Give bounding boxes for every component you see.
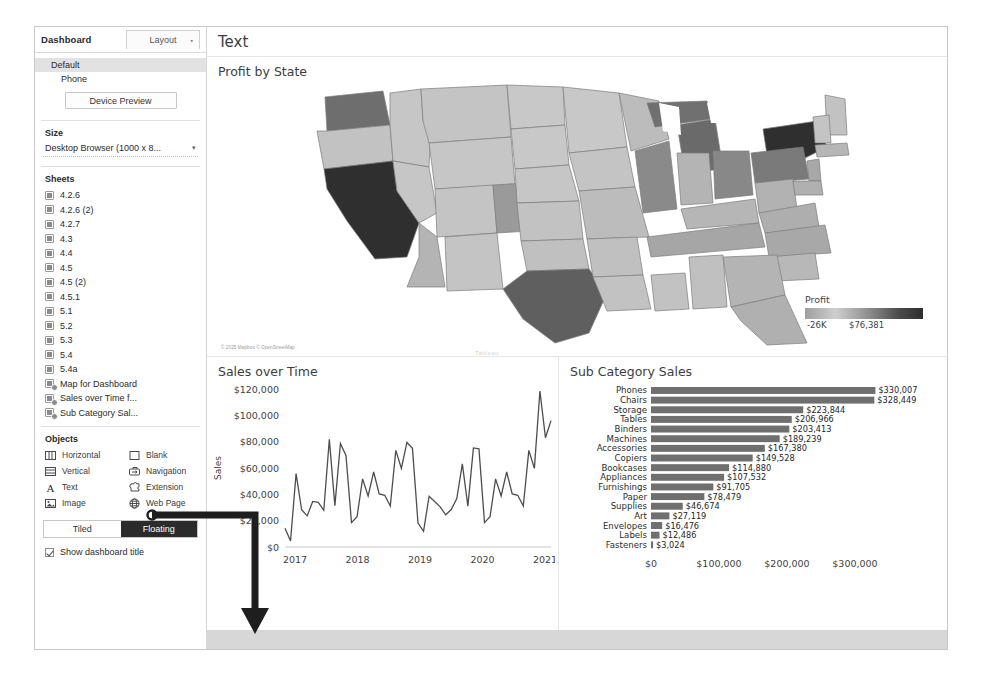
worksheet-icon [45, 292, 54, 301]
object-item-vertical[interactable]: Vertical [45, 463, 129, 479]
tiled-label: Tiled [73, 524, 92, 534]
line-chart-svg[interactable]: $0$20,000$40,000$60,000$80,000$100,000$1… [207, 381, 555, 581]
map-area[interactable]: © 2025 Mapbox © OpenStreetMap Tableau Pr… [207, 81, 947, 356]
sheet-item-label: 4.4 [60, 248, 73, 258]
worksheet-icon [45, 321, 54, 330]
bar-rect[interactable] [651, 503, 683, 510]
tab-layout[interactable]: Layout ▪ [126, 30, 200, 49]
sheet-item[interactable]: 5.3 [45, 333, 206, 348]
bar-rect[interactable] [651, 435, 780, 442]
sheet-item-label: 4.5 [60, 263, 73, 273]
bar-rect[interactable] [651, 541, 653, 548]
map-panel: Profit by State [207, 57, 947, 357]
sheet-item[interactable]: 4.5.1 [45, 290, 206, 305]
object-item-label: Image [62, 498, 86, 508]
size-heading: Size [35, 121, 206, 141]
bar-rect[interactable] [651, 387, 875, 394]
device-preview-button[interactable]: Device Preview [65, 92, 177, 109]
object-item-label: Navigation [146, 466, 186, 476]
bar-rect[interactable] [651, 445, 765, 452]
sidebar-title: Dashboard [41, 34, 126, 45]
sheet-item[interactable]: 4.2.7 [45, 217, 206, 232]
bar-value-label: $107,532 [727, 472, 766, 482]
checkbox-icon[interactable] [45, 548, 54, 557]
dashboard-canvas: Text Profit by State [207, 27, 947, 649]
sheet-item-label: Sales over Time f... [60, 393, 137, 403]
sheet-item[interactable]: 4.5 (2) [45, 275, 206, 290]
bar-rect[interactable] [651, 493, 704, 500]
line-chart[interactable]: $0$20,000$40,000$60,000$80,000$100,000$1… [207, 381, 554, 629]
sheet-item[interactable]: Map for Dashboard [45, 377, 206, 392]
floating-button[interactable]: Floating [121, 521, 198, 537]
bar-rect[interactable] [651, 397, 874, 404]
objects-heading: Objects [35, 427, 206, 447]
bar-rect[interactable] [651, 426, 789, 433]
object-item-label: Text [62, 482, 78, 492]
bar-rect[interactable] [651, 474, 724, 481]
bar-category-label: Accessories [597, 443, 648, 453]
bar-category-label: Supplies [611, 501, 648, 511]
bar-chart-svg[interactable]: Phones$330,007Chairs$328,449Storage$223,… [559, 381, 939, 581]
state-missouri [579, 187, 649, 239]
bar-rect[interactable] [651, 406, 803, 413]
sheet-item[interactable]: 5.4a [45, 362, 206, 377]
sheet-item[interactable]: 4.5 [45, 261, 206, 276]
device-item-phone[interactable]: Phone [35, 72, 206, 86]
bar-rect[interactable] [651, 532, 659, 539]
bar-rect[interactable] [651, 512, 669, 519]
size-dropdown[interactable]: Desktop Browser (1000 x 8... ▾ [43, 141, 198, 157]
worksheet-icon [45, 307, 54, 316]
sheet-item[interactable]: 4.2.6 (2) [45, 203, 206, 218]
size-dropdown-value: Desktop Browser (1000 x 8... [45, 143, 192, 153]
bar-value-label: $167,380 [768, 443, 807, 453]
bar-rect[interactable] [651, 416, 792, 423]
object-item-label: Extension [146, 482, 183, 492]
sheet-item[interactable]: 5.4 [45, 348, 206, 363]
map-panel-title: Profit by State [207, 57, 947, 81]
bar-category-label: Binders [615, 424, 648, 434]
object-item-text[interactable]: AText [45, 479, 129, 495]
tab-layout-label: Layout [149, 35, 176, 45]
sheet-item[interactable]: Sales over Time f... [45, 391, 206, 406]
map-attribution: © 2025 Mapbox © OpenStreetMap [221, 345, 295, 350]
text-icon: A [45, 482, 56, 493]
tableau-watermark: Tableau [475, 350, 499, 356]
bar-x-tick-label: $200,000 [764, 558, 809, 569]
object-item-image[interactable]: Image [45, 495, 129, 511]
dashboard-sidebar: Dashboard Layout ▪ Default Phone Device … [35, 27, 207, 649]
bar-category-label: Art [634, 511, 647, 521]
object-item-extension[interactable]: Extension [129, 479, 206, 495]
bar-rect[interactable] [651, 455, 753, 462]
legend-min-label: -26K [805, 320, 849, 330]
sheet-item-label: Map for Dashboard [60, 379, 137, 389]
state-massachusetts [815, 143, 849, 157]
sheet-item[interactable]: 4.3 [45, 232, 206, 247]
device-item-default[interactable]: Default [35, 58, 206, 72]
bar-rect[interactable] [651, 483, 713, 490]
bar-rect[interactable] [651, 522, 662, 529]
object-item-navigation[interactable]: Navigation [129, 463, 206, 479]
bar-category-label: Paper [623, 492, 648, 502]
line-x-tick-label: 2017 [283, 554, 307, 565]
dashboard-bottom-strip [207, 630, 947, 649]
object-item-web-page[interactable]: Web Page [129, 495, 206, 511]
sheet-item[interactable]: 4.4 [45, 246, 206, 261]
sheet-item[interactable]: 4.2.6 [45, 188, 206, 203]
bar-category-label: Phones [616, 385, 648, 395]
line-y-tick-label: $0 [267, 542, 279, 553]
sheet-item[interactable]: 5.2 [45, 319, 206, 334]
object-item-blank[interactable]: Blank [129, 447, 206, 463]
sheet-item[interactable]: 5.1 [45, 304, 206, 319]
line-y-tick-label: $20,000 [240, 515, 279, 526]
sheet-item[interactable]: Sub Category Sal... [45, 406, 206, 421]
bar-chart[interactable]: Phones$330,007Chairs$328,449Storage$223,… [559, 381, 941, 629]
object-item-horizontal[interactable]: Horizontal [45, 447, 129, 463]
state-texas [503, 269, 607, 343]
bar-value-label: $328,449 [877, 395, 916, 405]
bar-rect[interactable] [651, 464, 729, 471]
tiled-button[interactable]: Tiled [44, 521, 121, 537]
show-dashboard-title-row[interactable]: Show dashboard title [35, 538, 206, 557]
sheet-item-label: 5.2 [60, 321, 73, 331]
floating-label: Floating [143, 524, 175, 534]
line-y-axis-title: Sales [213, 456, 223, 480]
